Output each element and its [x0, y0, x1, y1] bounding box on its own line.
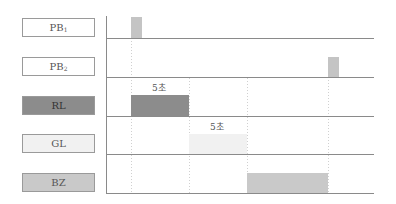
rl-duration-label: 5초 [152, 83, 166, 93]
pb2-pulse [328, 57, 339, 77]
bz-on-bar [247, 173, 328, 193]
gl-on-bar [189, 134, 247, 154]
gl-duration-label: 5초 [210, 122, 224, 132]
rl-on-bar [131, 95, 189, 116]
timing-diagram: 5초 5초 [0, 0, 396, 204]
pb1-pulse [131, 17, 142, 38]
